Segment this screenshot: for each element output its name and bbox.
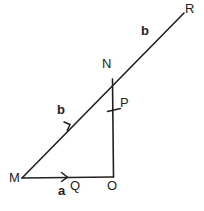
vertex-label-q: Q: [70, 179, 80, 192]
vector-label-b-upper: b: [141, 24, 149, 37]
tick-on-no-icon: [108, 109, 121, 112]
vertex-label-n: N: [102, 57, 111, 70]
segment-m-to-r: [22, 13, 184, 178]
geometry-figure: M Q O P N R a b b: [0, 0, 204, 211]
vector-label-a: a: [58, 184, 65, 197]
figure-canvas: [0, 0, 204, 211]
segment-n-to-o: [113, 79, 114, 177]
vertex-label-o: O: [107, 179, 117, 192]
vertex-label-r: R: [185, 2, 194, 15]
vector-label-b-left: b: [57, 103, 65, 116]
vertex-label-p: P: [120, 96, 129, 109]
vertex-label-m: M: [9, 171, 20, 184]
